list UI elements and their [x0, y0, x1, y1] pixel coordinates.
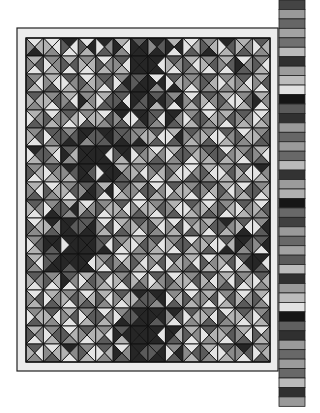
swatch [279, 104, 305, 113]
quilt-block [43, 74, 60, 92]
swatch [279, 9, 305, 18]
quilt-block [43, 38, 60, 56]
quilt-block [78, 344, 95, 362]
quilt-block [183, 326, 200, 344]
quilt-block [165, 326, 182, 344]
swatch [279, 85, 305, 94]
quilt-block [148, 308, 165, 326]
quilt-block [148, 128, 165, 146]
quilt-block [113, 182, 130, 200]
swatch [279, 189, 305, 198]
quilt-block [200, 308, 217, 326]
quilt-block [253, 200, 270, 218]
quilt-block [200, 110, 217, 128]
quilt-block [78, 236, 95, 254]
quilt-block [253, 236, 270, 254]
quilt-block [26, 218, 43, 236]
quilt-block [43, 182, 60, 200]
quilt-block [200, 56, 217, 74]
quilt-block [148, 236, 165, 254]
quilt-block [148, 344, 165, 362]
quilt-block [113, 164, 130, 182]
quilt-block [183, 272, 200, 290]
quilt-block [253, 344, 270, 362]
quilt-block [78, 254, 95, 272]
quilt-block [131, 128, 148, 146]
quilt-block [78, 308, 95, 326]
swatch [279, 38, 305, 47]
quilt-block [148, 272, 165, 290]
swatch [279, 331, 305, 340]
quilt-block [61, 272, 78, 290]
quilt-block [113, 38, 130, 56]
quilt-block [61, 92, 78, 110]
quilt-block [183, 92, 200, 110]
quilt-block [26, 254, 43, 272]
quilt-block [183, 38, 200, 56]
swatch [279, 350, 305, 359]
quilt-block [253, 182, 270, 200]
quilt-block [131, 326, 148, 344]
quilt-block [200, 200, 217, 218]
quilt-block [26, 110, 43, 128]
quilt-block [113, 146, 130, 164]
quilt-block [26, 200, 43, 218]
quilt-block [78, 128, 95, 146]
quilt-block [253, 326, 270, 344]
quilt-block [183, 182, 200, 200]
quilt-block [148, 200, 165, 218]
quilt-block [61, 326, 78, 344]
quilt-block [183, 254, 200, 272]
quilt-block [165, 236, 182, 254]
quilt-block [61, 308, 78, 326]
quilt-block [165, 74, 182, 92]
quilt-block [113, 272, 130, 290]
quilt-block [43, 128, 60, 146]
quilt-block [78, 38, 95, 56]
quilt-block [165, 200, 182, 218]
quilt-block [165, 254, 182, 272]
swatch [279, 227, 305, 236]
swatch [279, 151, 305, 160]
swatch [279, 76, 305, 85]
swatch [279, 123, 305, 132]
quilt-block [43, 164, 60, 182]
quilt-block [61, 344, 78, 362]
quilt-block [200, 38, 217, 56]
quilt-block [43, 218, 60, 236]
quilt-pattern [0, 0, 320, 413]
quilt-block [96, 74, 113, 92]
quilt-block [253, 218, 270, 236]
quilt-block [113, 236, 130, 254]
quilt-block [26, 236, 43, 254]
swatch [279, 198, 305, 207]
swatch [279, 284, 305, 293]
quilt-block [200, 146, 217, 164]
quilt-block [61, 56, 78, 74]
quilt-block [200, 236, 217, 254]
quilt-block [148, 164, 165, 182]
quilt-block [43, 254, 60, 272]
quilt-block [218, 164, 235, 182]
quilt-block [61, 74, 78, 92]
quilt-block [183, 290, 200, 308]
quilt-block [165, 56, 182, 74]
quilt-block [96, 290, 113, 308]
quilt-block [183, 110, 200, 128]
quilt-block [235, 128, 252, 146]
quilt-block [61, 164, 78, 182]
quilt-block [131, 38, 148, 56]
quilt-block [96, 38, 113, 56]
quilt-block [61, 236, 78, 254]
quilt-block [235, 308, 252, 326]
quilt-block [165, 110, 182, 128]
quilt-block [43, 308, 60, 326]
quilt-block [200, 164, 217, 182]
quilt-block [26, 290, 43, 308]
quilt-block [148, 254, 165, 272]
quilt-block [26, 308, 43, 326]
quilt-block [235, 272, 252, 290]
quilt-block [183, 164, 200, 182]
swatch [279, 369, 305, 378]
swatch [279, 397, 305, 406]
